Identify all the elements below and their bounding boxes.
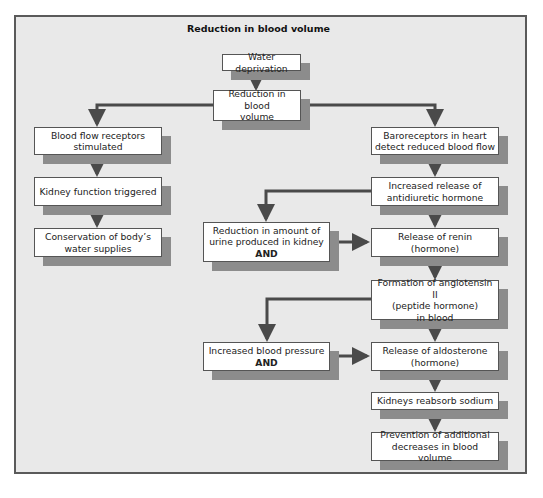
node-text: Formation of angiotensin II (374, 277, 496, 300)
arrow-reduction-to-bloodflow (97, 105, 213, 124)
node-blood-flow-receptors: Blood flow receptors stimulated (34, 127, 162, 155)
arrow-reduction-to-baroreceptors (300, 105, 435, 124)
node-conservation: Conservation of body’s water supplies (34, 228, 162, 257)
node-renin-release: Release of renin (hormone) (371, 228, 499, 257)
node-text: Release of renin (398, 231, 472, 243)
node-text: Reduction in blood (216, 88, 298, 111)
node-prevention: Prevention of additional decreases in bl… (371, 432, 499, 461)
node-text: antidiuretic hormone (387, 192, 483, 204)
node-text: Baroreceptors in heart (383, 130, 486, 142)
node-water-deprivation: Water deprivation (222, 54, 301, 71)
node-blood-pressure: Increased blood pressure AND (203, 342, 330, 371)
node-text: decreases in blood volume (374, 441, 496, 464)
node-kidney-function: Kidney function triggered (34, 177, 162, 206)
node-text: urine produced in kidney (209, 236, 324, 248)
node-text: detect reduced blood flow (375, 141, 495, 153)
node-text: water supplies (65, 243, 132, 255)
node-text: (hormone) (411, 243, 459, 255)
node-text: stimulated (74, 141, 123, 153)
node-text: (peptide hormone) (392, 300, 478, 312)
node-text: Prevention of additional (380, 429, 489, 441)
node-text: volume (240, 111, 274, 123)
node-adh-release: Increased release of antidiuretic hormon… (371, 177, 499, 206)
arrow-angiotensin-to-pressure (267, 299, 371, 339)
node-text: (hormone) (411, 357, 459, 369)
node-text: Reduction in amount of (213, 225, 320, 237)
node-reduction-blood-volume: Reduction in blood volume (213, 90, 301, 121)
node-text: Kidney function triggered (39, 186, 156, 198)
node-text: Conservation of body’s (45, 231, 151, 243)
node-text: Release of aldosterone (383, 345, 488, 357)
and-label: AND (255, 248, 277, 260)
node-text: Blood flow receptors (51, 130, 145, 142)
node-text: Increased release of (389, 180, 482, 192)
arrow-adh-to-urine (266, 191, 371, 219)
and-label: AND (255, 357, 277, 369)
node-text: Water deprivation (225, 51, 298, 74)
node-text: Kidneys reabsorb sodium (377, 395, 493, 407)
node-angiotensin: Formation of angiotensin II (peptide hor… (371, 280, 499, 320)
node-baroreceptors: Baroreceptors in heart detect reduced bl… (371, 127, 499, 155)
node-text: Increased blood pressure (209, 345, 325, 357)
node-urine-reduction: Reduction in amount of urine produced in… (203, 222, 330, 262)
node-text: in blood (417, 312, 454, 324)
node-sodium-reabsorb: Kidneys reabsorb sodium (371, 392, 499, 410)
node-aldosterone: Release of aldosterone (hormone) (371, 342, 499, 371)
